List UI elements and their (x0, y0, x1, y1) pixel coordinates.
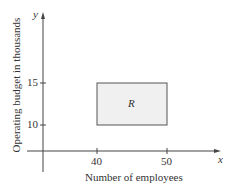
x-axis-symbol: x (218, 153, 223, 165)
y-axis-label: Operating budget in thousands (10, 10, 22, 160)
chart-canvas (0, 0, 233, 193)
region-label: R (128, 97, 135, 109)
y-axis-symbol: y (33, 8, 38, 20)
x-axis-label: Number of employees (85, 171, 183, 183)
y-tick-label-10: 10 (27, 118, 38, 130)
x-tick-label-40: 40 (91, 155, 102, 167)
y-tick-label-15: 15 (27, 76, 38, 88)
x-tick-label-50: 50 (161, 155, 172, 167)
y-axis-arrow-icon (41, 12, 45, 19)
